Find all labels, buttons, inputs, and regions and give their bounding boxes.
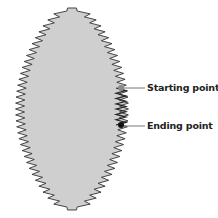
starting-point-label: Starting point <box>147 82 218 93</box>
diagram-canvas <box>0 0 218 218</box>
zigzag-lens-shape <box>16 8 129 210</box>
ending-point-marker <box>118 122 124 128</box>
ending-point-label: Ending point <box>147 120 213 131</box>
starting-point-marker <box>118 85 124 91</box>
